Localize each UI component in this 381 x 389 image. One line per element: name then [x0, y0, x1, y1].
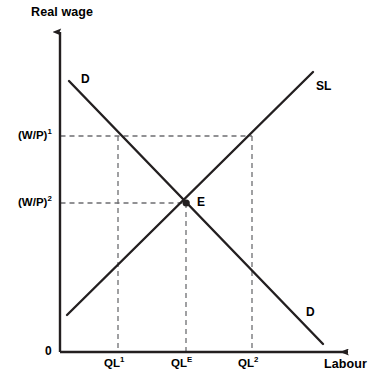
y-axis-title: Real wage [31, 6, 93, 19]
labour-tick-equilibrium-sup: E [187, 355, 192, 364]
labour-tick-2: QL2 [238, 358, 258, 370]
wage-tick-1-base: (W/P) [18, 129, 47, 141]
demand-curve-label-bottom: D [306, 306, 315, 318]
wage-tick-2-sup: 2 [47, 194, 51, 203]
wage-tick-1-sup: 1 [47, 127, 51, 136]
labour-market-diagram: Real wage Labour 0 D D SL E (W/P)1 (W/P)… [0, 0, 381, 389]
supply-curve-label: SL [316, 80, 331, 92]
equilibrium-point-marker [183, 199, 190, 206]
equilibrium-point-label: E [197, 196, 205, 208]
x-axis-title: Labour [324, 358, 367, 371]
labour-tick-1-sup: 1 [120, 355, 124, 364]
labour-tick-1-base: QL [104, 357, 120, 369]
guide-lines [61, 136, 253, 352]
wage-tick-2: (W/P)2 [18, 197, 52, 209]
wage-tick-2-base: (W/P) [18, 196, 47, 208]
labour-tick-2-sup: 2 [254, 355, 258, 364]
wage-tick-1: (W/P)1 [18, 130, 52, 142]
origin-label: 0 [45, 345, 52, 357]
labour-tick-1: QL1 [104, 358, 124, 370]
labour-tick-2-base: QL [238, 357, 254, 369]
labour-tick-equilibrium: QLE [171, 358, 192, 370]
supply-curve [67, 72, 313, 315]
demand-curve [69, 81, 323, 344]
labour-tick-equilibrium-base: QL [171, 357, 187, 369]
chart-canvas [0, 0, 381, 389]
demand-curve-label-top: D [81, 73, 90, 85]
